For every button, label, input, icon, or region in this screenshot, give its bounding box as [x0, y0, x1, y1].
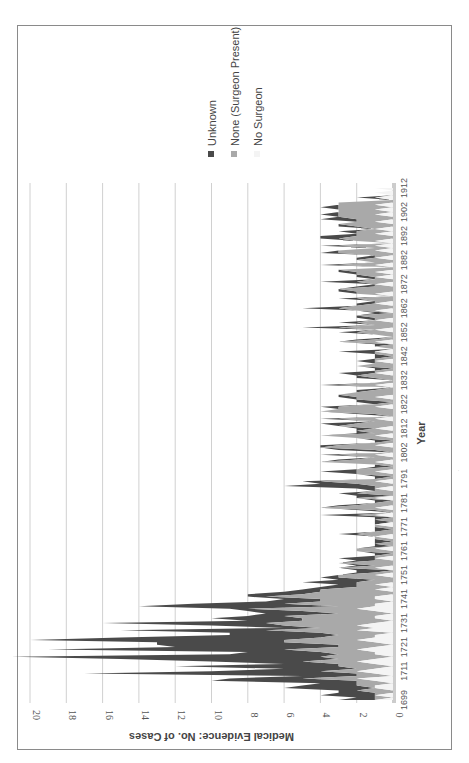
x-tick-label: 1902 — [399, 202, 409, 222]
legend-label: None (Surgeon Present) — [229, 27, 241, 146]
legend-swatch — [254, 151, 260, 157]
y-tick-label: 12 — [176, 710, 187, 720]
legend-swatch — [231, 151, 237, 157]
figure-caption: · — [456, 470, 466, 750]
x-tick-label: 1741 — [399, 589, 409, 609]
x-tick-label: 1812 — [399, 418, 409, 438]
y-tick-label: 10 — [213, 710, 224, 720]
y-tick-label: 4 — [321, 713, 332, 718]
x-tick-label: 1781 — [399, 493, 409, 513]
legend-swatch — [208, 151, 214, 157]
x-tick-label: 1852 — [399, 322, 409, 342]
x-tick-label: 1791 — [399, 469, 409, 489]
x-tick-label: 1751 — [399, 565, 409, 585]
x-tick-label: 1761 — [399, 541, 409, 561]
x-tick-label: 1731 — [399, 613, 409, 633]
y-tick-label: 8 — [249, 713, 260, 718]
legend-item: Unknown — [206, 100, 218, 157]
y-tick-label: 2 — [358, 713, 369, 718]
x-tick-label: 1842 — [399, 346, 409, 366]
legend-label: No Surgeon — [252, 87, 264, 146]
x-tick-label: 1832 — [399, 370, 409, 390]
x-tick-label: 1721 — [399, 637, 409, 657]
x-tick-label: 1912 — [399, 178, 409, 198]
legend-item: No Surgeon — [252, 87, 264, 157]
x-tick-label: 1771 — [399, 517, 409, 537]
y-tick-label: 18 — [67, 710, 78, 720]
y-axis-title: Medical Evidence: No. of Cases — [129, 731, 294, 743]
stacked-area-chart: 02468101214161820Medical Evidence: No. o… — [0, 0, 469, 763]
y-tick-label: 14 — [140, 710, 151, 720]
x-tick-label: 1822 — [399, 394, 409, 414]
x-tick-label: 1711 — [399, 661, 409, 680]
x-tick-label: 1882 — [399, 250, 409, 270]
x-tick-label: 1699 — [399, 690, 409, 710]
y-tick-label: 16 — [104, 710, 115, 720]
x-tick-label: 1802 — [399, 442, 409, 462]
y-tick-label: 0 — [394, 713, 405, 718]
y-tick-label: 20 — [31, 710, 42, 720]
y-tick-label: 6 — [285, 713, 296, 718]
x-axis-title: Year — [415, 421, 427, 445]
legend-item: None (Surgeon Present) — [229, 27, 241, 157]
x-tick-label: 1872 — [399, 274, 409, 294]
legend-label: Unknown — [206, 100, 218, 146]
x-tick-label: 1892 — [399, 226, 409, 246]
x-tick-label: 1862 — [399, 298, 409, 318]
